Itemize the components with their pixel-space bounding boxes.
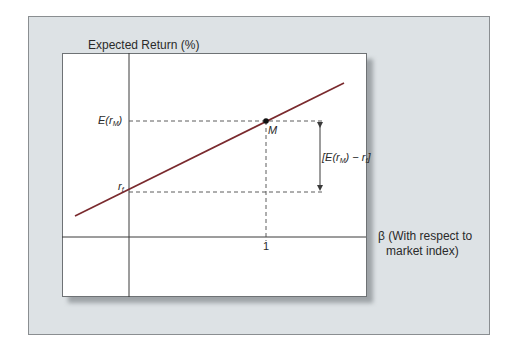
sml-chart (0, 0, 517, 356)
x-axis-label-line1: β (With respect to (378, 229, 472, 243)
premium-text-close: ] (367, 151, 370, 163)
market-point (263, 118, 269, 124)
x-axis-label-line2: market index) (386, 244, 459, 258)
tick-subscript: f (122, 186, 124, 193)
market-risk-premium-label: [E(rM) − rf] (322, 151, 370, 164)
y-tick-market-return: E(rM) (98, 114, 122, 127)
tick-text: E(r (98, 114, 113, 126)
x-tick-one: 1 (263, 240, 269, 252)
y-axis-label: Expected Return (%) (88, 38, 199, 52)
tick-text-close: ) (119, 114, 123, 126)
market-point-label: M (268, 124, 277, 136)
premium-text-mid: ) − r (346, 151, 366, 163)
y-tick-riskfree: rf (118, 180, 124, 193)
sml-line (75, 83, 344, 216)
premium-text: [E(r (322, 151, 340, 163)
